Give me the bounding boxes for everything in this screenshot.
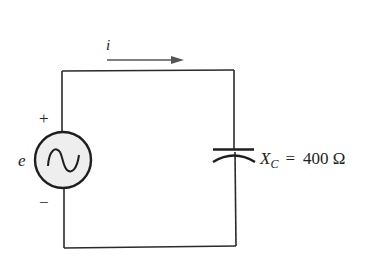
negative-terminal-label: −: [39, 193, 49, 212]
reactance-symbol: X: [259, 149, 271, 168]
positive-terminal-label: +: [39, 109, 49, 128]
capacitor: [213, 150, 255, 163]
reactance-equals: =: [285, 149, 295, 168]
reactance-subscript: C: [270, 157, 279, 171]
reactance-value: 400 Ω: [303, 149, 345, 168]
right-wire-lower: [235, 152, 236, 246]
reactance-label: XC=400 Ω: [259, 149, 345, 171]
current-label: i: [106, 37, 110, 53]
arrow-head-icon: [171, 56, 184, 64]
top-wire: [62, 70, 234, 71]
circuit-diagram: i e + − XC=400 Ω: [0, 0, 379, 279]
bottom-wire: [64, 246, 236, 248]
source-label: e: [18, 151, 26, 170]
ac-source: [35, 132, 91, 188]
current-arrow: [107, 56, 184, 64]
capacitor-curved-plate: [213, 156, 255, 163]
circuit-svg: i e + − XC=400 Ω: [0, 0, 379, 279]
